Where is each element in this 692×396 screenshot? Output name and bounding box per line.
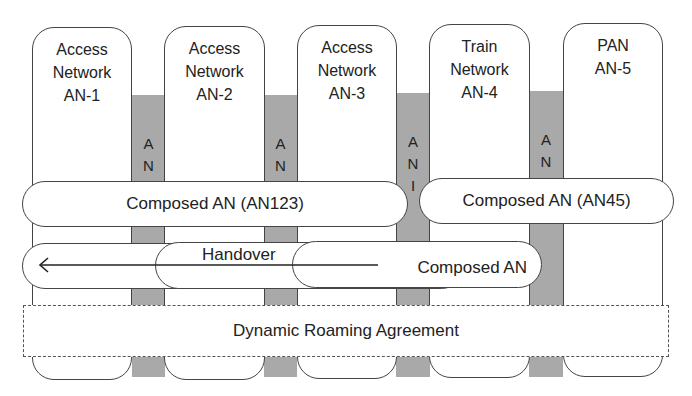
composed-an-an45: Composed AN (AN45) bbox=[419, 178, 674, 224]
dynamic-roaming-label: Dynamic Roaming Agreement bbox=[233, 321, 459, 341]
dynamic-roaming-agreement: Dynamic Roaming Agreement bbox=[23, 305, 669, 357]
composed-an-an45-label: Composed AN (AN45) bbox=[462, 191, 630, 211]
network-label: Access Network AN-2 bbox=[165, 37, 264, 106]
network-label: Access Network AN-1 bbox=[33, 38, 131, 107]
composed-an-moving-label: Composed AN bbox=[417, 258, 527, 278]
composed-an-an123-label: Composed AN (AN123) bbox=[126, 194, 304, 214]
composed-an-an123: Composed AN (AN123) bbox=[22, 181, 408, 227]
network-label: Access Network AN-3 bbox=[298, 36, 396, 105]
left-arrow-icon bbox=[30, 255, 380, 275]
network-label: Train Network AN-4 bbox=[430, 35, 529, 104]
network-label: PAN AN-5 bbox=[564, 34, 662, 80]
